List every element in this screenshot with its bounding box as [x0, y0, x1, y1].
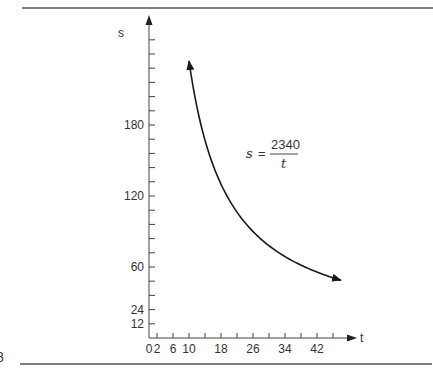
x-axis-label: t	[360, 331, 364, 345]
hyperbola-curve	[189, 61, 341, 280]
equation-lhs: s	[246, 146, 253, 161]
equation-denominator: t	[281, 156, 287, 171]
page-number-fragment: 8	[0, 349, 4, 365]
y-tick-label: 24	[131, 303, 145, 317]
x-tick-labels: 0261018263442	[146, 342, 324, 356]
y-tick-label: 180	[124, 118, 144, 132]
y-axis-arrow-icon	[146, 15, 153, 25]
x-tick-label: 10	[182, 342, 196, 356]
chart: 8 s t 0261018263442 122460120180 s = 234…	[0, 0, 433, 374]
figure: 8 s t 0261018263442 122460120180 s = 234…	[0, 0, 433, 374]
equation-label: s = 2340 t	[246, 137, 300, 171]
x-tick-label: 0	[146, 342, 153, 356]
x-tick-label: 42	[310, 342, 324, 356]
y-tick-label: 120	[124, 189, 144, 203]
y-ticks	[149, 40, 155, 324]
y-tick-labels: 122460120180	[124, 118, 144, 331]
x-axis-arrow-icon	[347, 335, 357, 342]
x-tick-label: 18	[214, 342, 228, 356]
equation-numerator: 2340	[271, 137, 300, 152]
x-tick-label: 6	[170, 342, 177, 356]
x-ticks	[157, 333, 333, 338]
y-tick-label: 12	[131, 317, 145, 331]
x-tick-label: 34	[278, 342, 292, 356]
x-tick-label: 2	[154, 342, 161, 356]
y-tick-label: 60	[131, 260, 145, 274]
equation-equals: =	[258, 146, 266, 161]
y-axis-label: s	[118, 26, 124, 40]
x-tick-label: 26	[246, 342, 260, 356]
